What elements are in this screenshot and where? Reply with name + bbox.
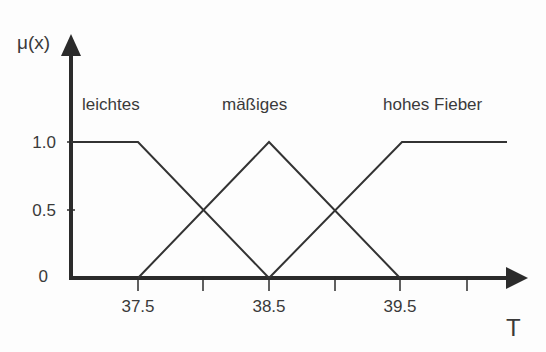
series-hohes-fieber bbox=[269, 142, 507, 278]
x-axis-label: T bbox=[506, 316, 521, 340]
x-tick-label-39-5: 39.5 bbox=[375, 298, 425, 315]
x-tick-label-38-5: 38.5 bbox=[244, 298, 294, 315]
x-axis-arrow-icon bbox=[506, 267, 528, 289]
legend-label-hohes-fieber: hohes Fieber bbox=[383, 96, 482, 113]
series-leichtes bbox=[71, 142, 269, 278]
legend-label-maessiges: mäßiges bbox=[222, 96, 287, 113]
x-tick-label-37-5: 37.5 bbox=[113, 298, 163, 315]
y-axis-arrow-icon bbox=[61, 34, 81, 56]
series-maessiges bbox=[138, 142, 400, 278]
y-tick-label-1: 1.0 bbox=[16, 134, 56, 151]
y-axis-label: μ(x) bbox=[17, 33, 50, 52]
y-tick-label-0: 0 bbox=[8, 268, 48, 285]
y-tick-label-05: 0.5 bbox=[16, 202, 56, 219]
legend-label-leichtes: leichtes bbox=[82, 96, 140, 113]
